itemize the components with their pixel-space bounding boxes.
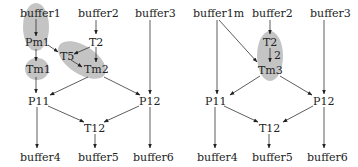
- node-buffer5-right: buffer5: [252, 151, 293, 164]
- node-pm1: Pm1: [25, 36, 50, 49]
- node-buffer6-right: buffer6: [307, 151, 348, 164]
- node-t5: T5: [60, 50, 74, 63]
- node-buffer3-right: buffer3: [310, 7, 351, 20]
- node-t12-right: T12: [259, 122, 280, 135]
- node-tm2: Tm2: [84, 63, 109, 76]
- dataflow-diagram: buffer1 buffer2 buffer3 Pm1 T2 T5 Tm1 Tm…: [0, 0, 358, 167]
- node-tm3: Tm3: [258, 64, 283, 77]
- node-p11-right: P11: [205, 95, 226, 108]
- node-t2: T2: [89, 36, 103, 49]
- left-graph: buffer1 buffer2 buffer3 Pm1 T2 T5 Tm1 Tm…: [20, 3, 176, 164]
- node-buffer2-right: buffer2: [252, 7, 293, 20]
- node-p12: P12: [139, 95, 160, 108]
- node-buffer4: buffer4: [20, 151, 61, 164]
- right-graph: buffer1m buffer2 buffer3 T2 2 Tm3 P11 P1…: [193, 7, 351, 164]
- node-buffer5: buffer5: [78, 151, 119, 164]
- node-p12-right: P12: [313, 95, 334, 108]
- node-buffer1m: buffer1m: [193, 7, 245, 20]
- node-buffer1: buffer1: [20, 7, 61, 20]
- node-buffer4-right: buffer4: [197, 151, 238, 164]
- node-buffer3: buffer3: [135, 7, 176, 20]
- node-tm1: Tm1: [26, 63, 51, 76]
- node-t12: T12: [84, 122, 105, 135]
- node-buffer6: buffer6: [133, 151, 174, 164]
- edge-label-2: 2: [274, 49, 281, 62]
- node-t2-right: T2: [263, 36, 277, 49]
- node-p11: P11: [28, 95, 49, 108]
- node-buffer2: buffer2: [78, 7, 119, 20]
